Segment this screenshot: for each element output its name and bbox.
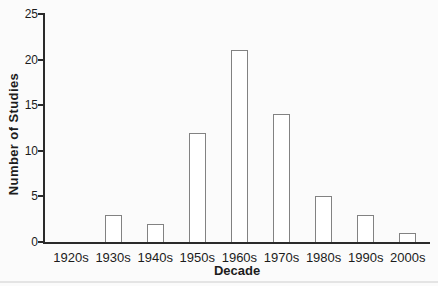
bar-1980s <box>315 196 332 242</box>
scan-artifact-line <box>0 281 438 283</box>
y-tick-label: 15 <box>6 98 38 112</box>
bar-chart-figure: Number of Studies 05101520251920s1930s19… <box>0 0 438 286</box>
y-tick-label: 20 <box>6 53 38 67</box>
bar-1950s <box>189 133 206 242</box>
bar-1930s <box>105 215 122 242</box>
y-axis-line <box>43 13 45 244</box>
x-axis-title: Decade <box>187 263 287 278</box>
y-tick-mark <box>38 195 43 197</box>
y-tick-label: 5 <box>6 189 38 203</box>
bar-1960s <box>231 50 248 242</box>
y-tick-mark <box>38 59 43 61</box>
bar-2000s <box>399 233 416 242</box>
y-tick-mark <box>38 150 43 152</box>
x-axis-line <box>43 242 430 244</box>
y-tick-mark <box>38 241 43 243</box>
x-tick-label-2000s: 2000s <box>378 250 438 265</box>
y-tick-label: 10 <box>6 144 38 158</box>
bar-1940s <box>147 224 164 242</box>
y-tick-mark <box>38 104 43 106</box>
y-tick-mark <box>38 13 43 15</box>
bar-1970s <box>273 114 290 242</box>
y-tick-label: 0 <box>6 235 38 249</box>
bar-1990s <box>357 215 374 242</box>
y-tick-label: 25 <box>6 7 38 21</box>
